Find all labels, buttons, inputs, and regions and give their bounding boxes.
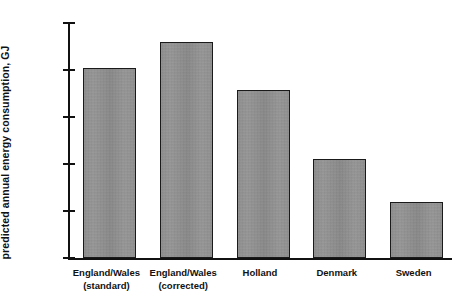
y-axis-line [68, 23, 70, 259]
y-axis-tick [63, 163, 75, 165]
bar [237, 90, 290, 258]
x-axis-line [68, 258, 452, 260]
y-axis-tick [63, 210, 75, 212]
bar [313, 159, 366, 258]
bar [160, 42, 213, 258]
y-axis-title-label: predicted annual energy consumption, GJ [0, 46, 11, 260]
bar [390, 202, 443, 258]
y-axis-tick [63, 69, 75, 71]
y-axis-tick [63, 257, 75, 259]
plot-area: 01020304050 England/Wales (standard)Engl… [68, 23, 452, 258]
x-axis-category-label: Sweden [367, 267, 460, 280]
y-axis-title: predicted annual energy consumption, GJ [14, 0, 40, 305]
y-axis-tick [63, 116, 75, 118]
bar [83, 68, 136, 258]
y-axis-tick [63, 22, 75, 24]
bar-chart: predicted annual energy consumption, GJ … [0, 0, 472, 305]
